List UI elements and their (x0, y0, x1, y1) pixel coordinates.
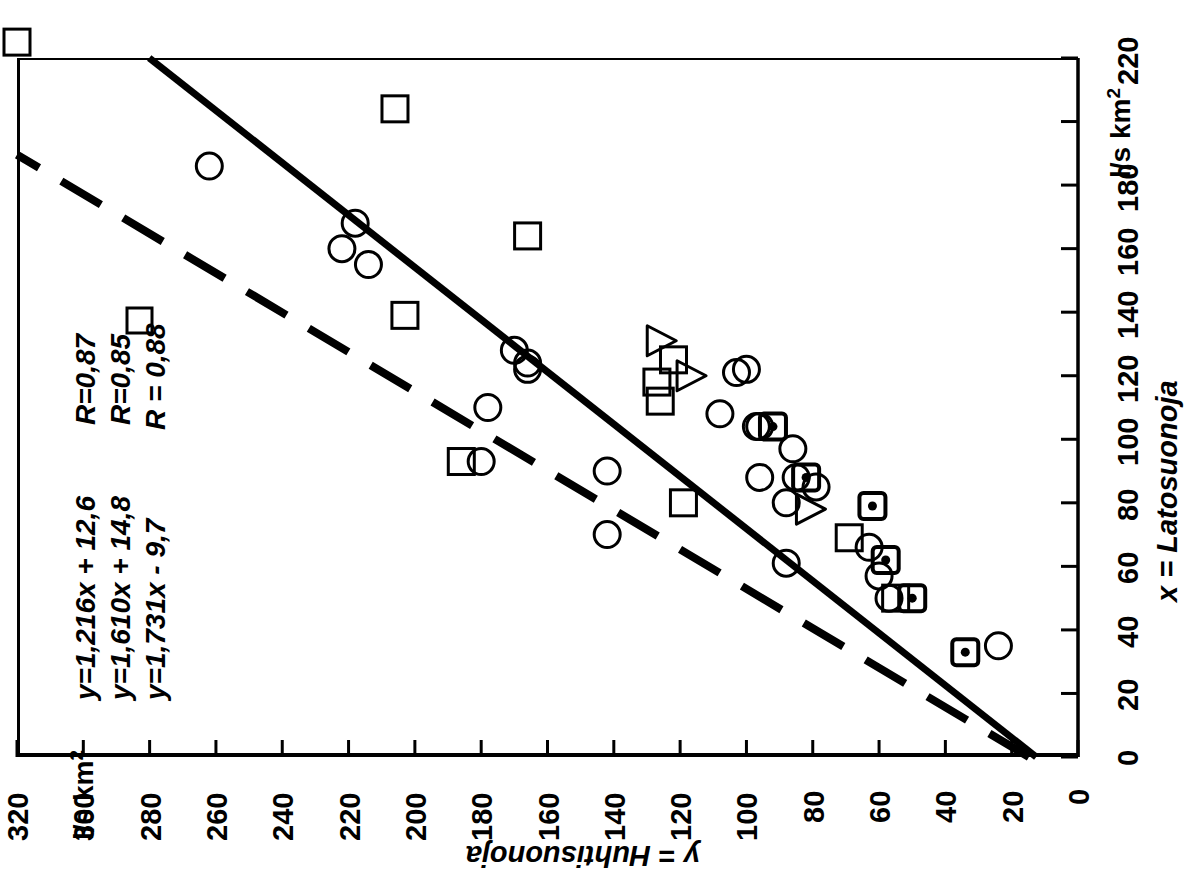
y-tick-label: 0 (1063, 789, 1096, 805)
y-axis-unit: l/s km2 (66, 750, 100, 840)
y-tick-label: 60 (864, 791, 897, 823)
y-tick-label: 80 (798, 791, 831, 823)
x-tick-label: 0 (1112, 750, 1145, 766)
y-tick-label: 20 (997, 791, 1030, 823)
x-tick-label: 60 (1112, 552, 1145, 584)
correlation-1: R=0,87 (70, 334, 102, 425)
y-tick-label: 240 (267, 793, 300, 841)
y-tick-label: 40 (930, 791, 963, 823)
equation-1: y=1,216x + 12,6 (70, 496, 102, 700)
y-tick-label: 280 (135, 793, 168, 841)
y-tick-label: 160 (533, 793, 566, 841)
y-tick-label: 140 (599, 793, 632, 841)
equation-2: y=1,610x + 14,8 (105, 496, 137, 700)
x-axis-title: x = Latosuonoja (1151, 380, 1184, 602)
x-tick-label: 40 (1112, 616, 1145, 648)
y-tick-label: 200 (400, 793, 433, 841)
x-tick-label: 220 (1112, 37, 1145, 85)
y-tick-label: 260 (201, 793, 234, 841)
y-tick-label: 100 (731, 793, 764, 841)
x-tick-label: 140 (1112, 291, 1145, 339)
x-tick-label: 160 (1112, 227, 1145, 275)
data-point-open-square (4, 29, 30, 55)
correlation-2: R=0,85 (105, 334, 137, 425)
x-axis-unit: l/s km2 (1103, 88, 1137, 178)
y-tick-label: 320 (2, 793, 35, 841)
correlation-3: R = 0,88 (140, 323, 172, 430)
x-tick-label: 100 (1112, 418, 1145, 466)
y-axis-title: y = Huhtisuonoja (466, 839, 700, 872)
y-tick-label: 120 (665, 793, 698, 841)
y-tick-label: 180 (466, 793, 499, 841)
x-tick-label: 80 (1112, 489, 1145, 521)
equation-3: y=1,731x - 9,7 (140, 519, 172, 700)
y-tick-label: 220 (334, 793, 367, 841)
x-tick-label: 20 (1112, 679, 1145, 711)
x-tick-label: 120 (1112, 354, 1145, 402)
plot-frame (17, 58, 1078, 757)
